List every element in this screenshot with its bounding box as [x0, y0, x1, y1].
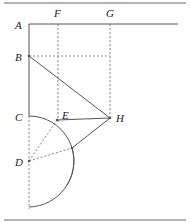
point-label-f: F — [53, 7, 61, 19]
solid-segment-hk — [72, 118, 110, 148]
vertex-dot-d — [28, 160, 31, 163]
solid-diagonal-bh — [29, 56, 110, 118]
solid-segments — [29, 24, 178, 148]
point-label-a: A — [14, 19, 22, 31]
vertex-dot-k — [71, 147, 74, 150]
point-label-e: E — [61, 109, 69, 121]
point-label-h: H — [115, 112, 125, 124]
arcs — [29, 116, 74, 207]
vertex-dot-h — [109, 117, 112, 120]
vertex-dot-e — [56, 119, 59, 122]
dashed-radius-dk — [29, 148, 72, 161]
vertex-dot-b — [28, 55, 31, 58]
geometry-diagram: A B C D E F G H — [0, 0, 190, 223]
dashed-radius-de — [29, 120, 57, 161]
point-label-b: B — [15, 51, 22, 63]
large-arc-k — [29, 148, 74, 207]
figure-root: A B C D E F G H — [0, 0, 190, 223]
point-label-g: G — [106, 7, 114, 19]
point-label-d: D — [14, 156, 23, 168]
vertex-dots — [28, 55, 112, 163]
point-label-c: C — [15, 111, 23, 123]
